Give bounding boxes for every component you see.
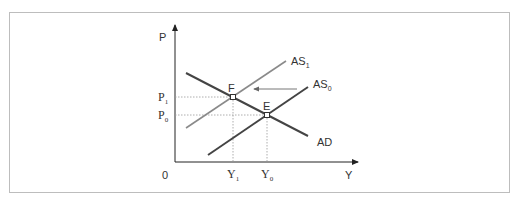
as-ad-diagram: P Y 0 F E AS1 AS0 AD P1 P0 Y1 Y0	[0, 0, 517, 202]
ad-curve	[186, 73, 308, 136]
as0-label: AS0	[313, 78, 332, 92]
point-f	[231, 95, 236, 100]
p1-label: P1	[158, 90, 169, 106]
y0-label: Y0	[261, 167, 274, 183]
point-f-label: F	[228, 82, 235, 94]
point-e	[265, 113, 270, 118]
origin-label: 0	[162, 169, 168, 181]
as1-label: AS1	[291, 55, 310, 69]
p0-label: P0	[158, 108, 169, 124]
y-axis-label: P	[159, 31, 166, 43]
ad-label: AD	[317, 136, 332, 148]
x-axis-label: Y	[345, 169, 353, 181]
y1-label: Y1	[227, 167, 240, 183]
point-e-label: E	[263, 100, 270, 112]
